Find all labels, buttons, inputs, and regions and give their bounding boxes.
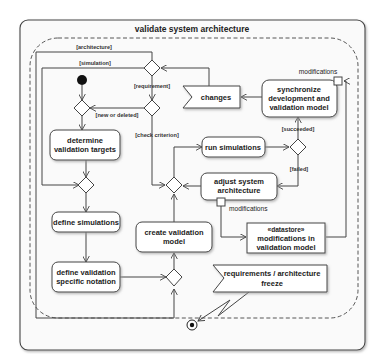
svg-text:modifications in: modifications in	[257, 234, 315, 243]
action-synchronize-development-and-validation-model[interactable]: synchronize development and validation m…	[262, 80, 337, 117]
action-determine-validation-targets[interactable]: determine validation targets	[50, 130, 120, 160]
datastore-modifications-in-validation-model[interactable]: «datastore» modifications in validation …	[247, 223, 325, 253]
svg-text:run simulations: run simulations	[205, 143, 261, 152]
svg-text:«datastore»: «datastore»	[267, 226, 304, 233]
svg-text:determine: determine	[67, 136, 103, 145]
guard-architecture: [architecture]	[76, 44, 112, 50]
activity-final-node	[187, 320, 197, 330]
svg-text:synchronize: synchronize	[277, 85, 321, 94]
svg-text:architecture: architecture	[218, 186, 261, 195]
guard-new-or-deleted: [new or deleted]	[96, 112, 139, 118]
svg-text:validation model: validation model	[269, 103, 328, 112]
activity-diagram: validate system architecture	[0, 0, 383, 354]
svg-text:define simulations: define simulations	[53, 218, 119, 227]
svg-text:validation model: validation model	[256, 243, 315, 252]
initial-node	[77, 75, 87, 85]
svg-text:development and: development and	[268, 94, 330, 103]
svg-text:validation targets: validation targets	[54, 145, 116, 154]
activity-title: validate system architecture	[135, 24, 250, 34]
svg-text:modifications: modifications	[229, 205, 268, 212]
action-run-simulations[interactable]: run simulations	[202, 137, 265, 157]
svg-text:adjust system: adjust system	[214, 177, 264, 186]
svg-text:model: model	[163, 237, 185, 246]
svg-text:changes: changes	[201, 93, 231, 102]
svg-text:specific notation: specific notation	[56, 277, 116, 286]
action-define-simulations[interactable]: define simulations	[52, 212, 120, 232]
svg-text:requirements / architecture: requirements / architecture	[224, 269, 321, 278]
guard-requirement: [requirement]	[134, 83, 170, 89]
svg-text:create validation: create validation	[144, 228, 204, 237]
svg-text:define validation: define validation	[56, 268, 116, 277]
action-create-validation-model[interactable]: create validation model	[136, 222, 212, 252]
action-adjust-system-architecture[interactable]: adjust system architecture	[201, 173, 277, 200]
guard-failed: [failed]	[290, 166, 308, 172]
svg-text:modifications: modifications	[299, 68, 338, 75]
guard-check-criterion: [check criterion]	[135, 132, 179, 138]
accept-event-requirements-architecture-freeze[interactable]: requirements / architecture freeze	[213, 265, 327, 292]
svg-text:freeze: freeze	[261, 279, 283, 288]
action-define-validation-specific-notation[interactable]: define validation specific notation	[52, 262, 120, 292]
guard-simulation: [simulation]	[79, 60, 111, 66]
guard-succeeded: [succeeded]	[282, 126, 315, 132]
accept-event-changes[interactable]: changes	[183, 86, 240, 108]
